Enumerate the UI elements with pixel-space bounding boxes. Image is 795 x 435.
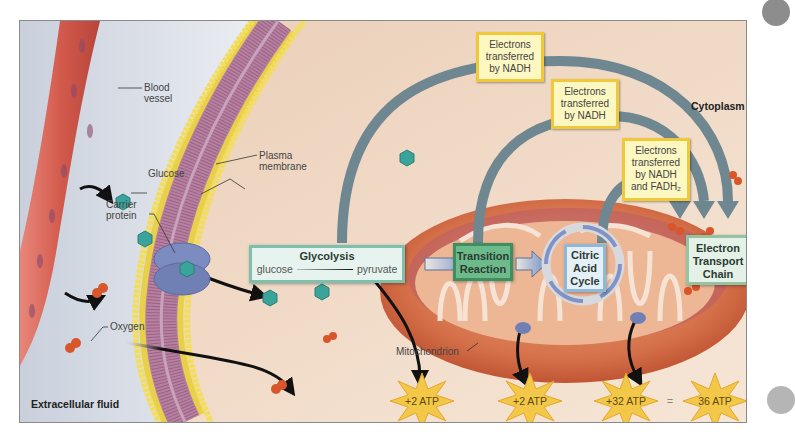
citric-acid-cycle-box: Citric Acid Cycle [564, 244, 606, 292]
plasma-membrane-label-line2: membrane [259, 161, 307, 172]
electrons-box-2-line1: Electrons [557, 86, 613, 98]
glycolysis-box: Glycolysis glucose pyruvate [249, 245, 405, 283]
electrons-box-2-line2: transferred [557, 98, 613, 110]
glucose-label: Glucose [148, 168, 185, 179]
electrons-box-1-line3: by NADH [482, 63, 538, 75]
etc-line2: Transport [689, 255, 747, 268]
transition-reaction-box: Transition Reaction [453, 243, 513, 281]
electrons-nadh-box-2: Electrons transferred by NADH [551, 79, 619, 129]
blood-vessel-label-line1: Blood [144, 82, 172, 93]
electrons-box-3-line4: and FADH₂ [628, 181, 684, 193]
atp-total: 36 ATP [685, 395, 745, 407]
cytoplasm-label: Cytoplasm [691, 101, 745, 112]
plasma-membrane-label-line1: Plasma [259, 150, 307, 161]
figure-frame: Blood vessel Glucose Plasma membrane Car… [19, 20, 747, 423]
glycolysis-arrow-icon [297, 269, 353, 271]
diagram-illustration [20, 21, 746, 422]
etc-line3: Chain [689, 268, 747, 281]
electrons-box-1-line1: Electrons [482, 39, 538, 51]
transition-line2: Reaction [456, 263, 510, 276]
electrons-box-3-line1: Electrons [628, 145, 684, 157]
carrier-protein-label-line2: protein [106, 210, 137, 221]
electrons-box-2-line3: by NADH [557, 110, 613, 122]
atp-etc: +32 ATP [596, 395, 656, 407]
plasma-membrane-label: Plasma membrane [259, 150, 307, 172]
carrier-protein-label: Carrier protein [106, 199, 137, 221]
blood-vessel-label: Blood vessel [144, 82, 172, 104]
extracellular-fluid-label: Extracellular fluid [31, 399, 119, 410]
citric-line2: Acid [567, 262, 603, 275]
carrier-protein-label-line1: Carrier [106, 199, 137, 210]
electrons-box-3-line3: by NADH [628, 169, 684, 181]
glycolysis-to: pyruvate [357, 263, 397, 276]
page-edge-circle-bottom [767, 386, 795, 414]
citric-line3: Cycle [567, 275, 603, 288]
atp-citric: +2 ATP [500, 395, 560, 407]
electrons-nadh-box-1: Electrons transferred by NADH [476, 32, 544, 82]
oxygen-label: Oxygen [110, 321, 144, 332]
etc-line1: Electron [689, 242, 747, 255]
electrons-box-1-line2: transferred [482, 51, 538, 63]
atp-glycolysis: +2 ATP [392, 395, 452, 407]
glycolysis-title: Glycolysis [252, 250, 402, 263]
page-edge-circle-top [762, 0, 790, 26]
electrons-nadh-fadh2-box: Electrons transferred by NADH and FADH₂ [622, 138, 690, 201]
glycolysis-equation: glucose pyruvate [252, 263, 402, 276]
mitochondrion-label: Mitochondrion [396, 346, 459, 357]
electrons-box-3-line2: transferred [628, 157, 684, 169]
blood-vessel-label-line2: vessel [144, 93, 172, 104]
transition-line1: Transition [456, 250, 510, 263]
citric-line1: Citric [567, 249, 603, 262]
electron-transport-chain-box: Electron Transport Chain [686, 235, 747, 285]
glycolysis-from: glucose [257, 263, 293, 276]
atp-equals: = [665, 395, 675, 407]
